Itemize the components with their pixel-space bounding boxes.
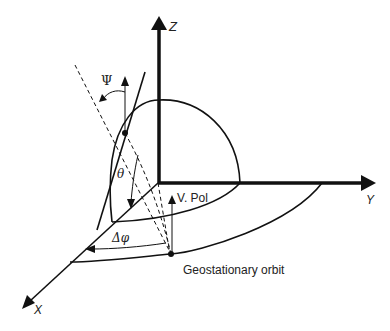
y-axis-label: Y — [366, 193, 375, 207]
v-pol-label: V. Pol — [177, 191, 208, 205]
x-axis-label: X — [33, 303, 43, 317]
local-vertical-arrowhead-icon — [121, 76, 129, 86]
y-axis-arrowhead-icon — [361, 175, 376, 191]
x-axis — [22, 183, 158, 309]
tangent-line — [97, 72, 145, 230]
z-axis-label: Z — [168, 19, 178, 34]
psi-angle-arc — [103, 91, 125, 99]
y-axis — [158, 175, 376, 191]
theta-angle-arc — [131, 155, 138, 202]
hemisphere-yz-arc — [159, 100, 240, 183]
v-pol-arrowhead-icon — [168, 195, 176, 204]
psi-label: Ψ — [101, 73, 112, 88]
polarization-geometry-diagram: Z Y X Ψ θ Δφ V. Pol Geostationary o — [0, 0, 390, 331]
z-axis-arrowhead-icon — [151, 16, 167, 30]
satellite-point — [168, 251, 174, 257]
theta-arrowhead-icon — [127, 199, 135, 209]
theta-label: θ — [117, 167, 125, 181]
line-of-sight-dashed — [75, 65, 171, 254]
geostationary-orbit-label: Geostationary orbit — [183, 263, 285, 277]
delta-phi-label: Δφ — [111, 231, 130, 245]
